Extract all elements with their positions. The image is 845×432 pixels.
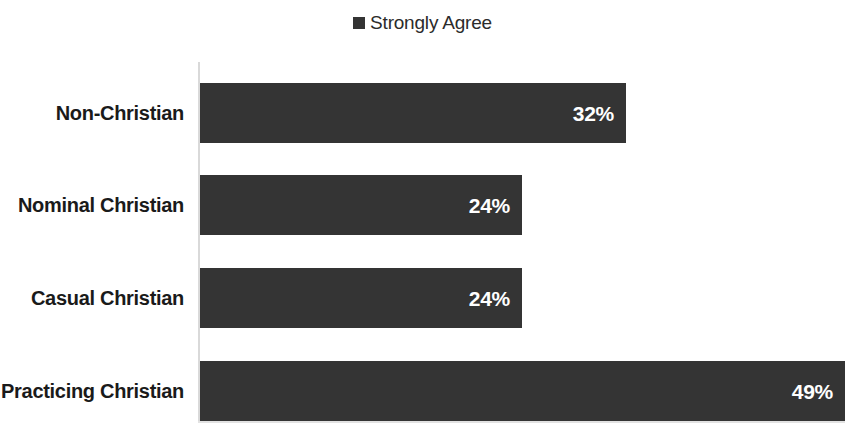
bar-strongly-agree: 32% bbox=[200, 83, 626, 143]
bar-value-label: 24% bbox=[469, 288, 510, 309]
bar-strongly-agree: 24% bbox=[200, 175, 522, 235]
chart-row: Casual Christian 24% bbox=[0, 268, 845, 328]
bar-chart: Strongly Agree Non-Christian 32% Nominal… bbox=[0, 0, 845, 432]
category-label: Practicing Christian bbox=[0, 361, 184, 421]
chart-row: Non-Christian 32% bbox=[0, 83, 845, 143]
bar-value-label: 24% bbox=[469, 195, 510, 216]
bar-strongly-agree: 24% bbox=[200, 268, 522, 328]
category-label: Nominal Christian bbox=[0, 175, 184, 235]
category-label: Casual Christian bbox=[0, 268, 184, 328]
plot-area: Non-Christian 32% Nominal Christian 24% … bbox=[0, 0, 845, 432]
bar-value-label: 32% bbox=[573, 103, 614, 124]
chart-row: Nominal Christian 24% bbox=[0, 175, 845, 235]
x-axis-baseline bbox=[198, 421, 845, 423]
chart-row: Practicing Christian 49% bbox=[0, 361, 845, 421]
category-label: Non-Christian bbox=[0, 83, 184, 143]
bar-track: 49% bbox=[200, 361, 845, 421]
bar-strongly-agree: 49% bbox=[200, 361, 845, 421]
bar-track: 24% bbox=[200, 268, 845, 328]
bar-track: 24% bbox=[200, 175, 845, 235]
bar-track: 32% bbox=[200, 83, 845, 143]
bar-value-label: 49% bbox=[792, 381, 833, 402]
